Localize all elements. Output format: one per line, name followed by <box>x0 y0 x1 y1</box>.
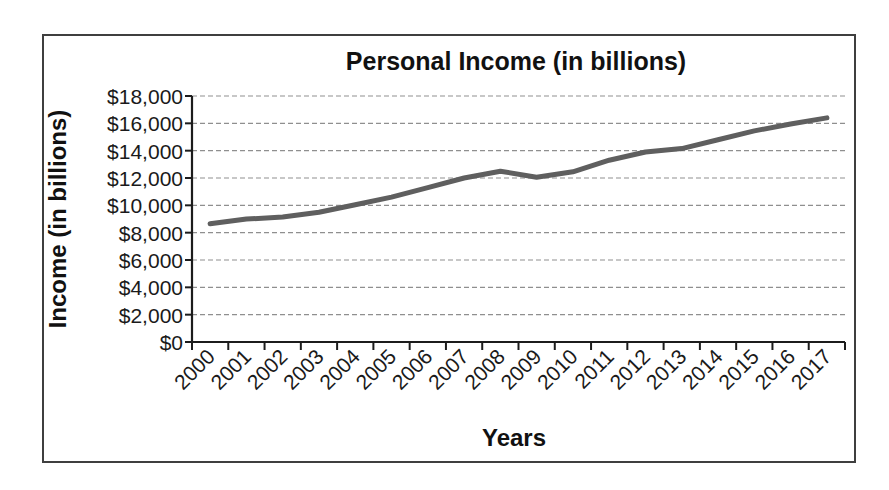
y-axis-tick-label: $14,000 <box>107 140 183 163</box>
y-axis-tick-label: $12,000 <box>107 167 183 190</box>
y-axis-tick-label: $8,000 <box>119 222 183 245</box>
x-axis-tick-label: 2007 <box>424 345 473 394</box>
x-axis-tick-label: 2008 <box>460 345 509 394</box>
series-group <box>210 118 827 224</box>
x-axis-title: Years <box>482 424 546 451</box>
income-line-series <box>210 118 827 224</box>
x-axis-tick-label: 2017 <box>786 345 835 394</box>
x-axis-tick-label: 2005 <box>351 345 400 394</box>
x-axis-tick-label: 2013 <box>641 345 690 394</box>
x-axis-tick-label: 2014 <box>678 344 728 394</box>
x-axis-tick-label: 2015 <box>714 345 763 394</box>
y-axis-tick-label: $4,000 <box>119 276 183 299</box>
chart-figure: $0$2,000$4,000$6,000$8,000$10,000$12,000… <box>0 0 889 490</box>
gridlines-group <box>192 96 845 315</box>
y-axis-tick-label: $16,000 <box>107 112 183 135</box>
x-axis-tick-label: 2011 <box>570 345 618 393</box>
chart-svg: $0$2,000$4,000$6,000$8,000$10,000$12,000… <box>0 0 889 490</box>
y-axis-tick-label: $2,000 <box>119 304 183 327</box>
x-axis-tick-label: 2012 <box>605 345 654 394</box>
x-axis-tick-label: 2009 <box>496 345 545 394</box>
y-axis-title: Income (in billions) <box>44 110 71 329</box>
y-axis-tick-label: $10,000 <box>107 194 183 217</box>
y-axis-tick-label: $18,000 <box>107 85 183 108</box>
x-axis-tick-label: 2001 <box>206 345 255 394</box>
tick-labels-group: $0$2,000$4,000$6,000$8,000$10,000$12,000… <box>107 85 836 394</box>
y-axis-tick-label: $6,000 <box>119 249 183 272</box>
x-axis-tick-label: 2016 <box>750 345 799 394</box>
x-axis-tick-label: 2010 <box>532 345 581 394</box>
chart-title: Personal Income (in billions) <box>346 47 686 75</box>
x-axis-tick-label: 2003 <box>279 345 328 394</box>
x-axis-tick-label: 2006 <box>387 345 436 394</box>
x-axis-tick-label: 2002 <box>242 345 291 394</box>
y-axis-tick-label: $0 <box>160 331 183 354</box>
x-axis-tick-label: 2004 <box>315 344 365 394</box>
